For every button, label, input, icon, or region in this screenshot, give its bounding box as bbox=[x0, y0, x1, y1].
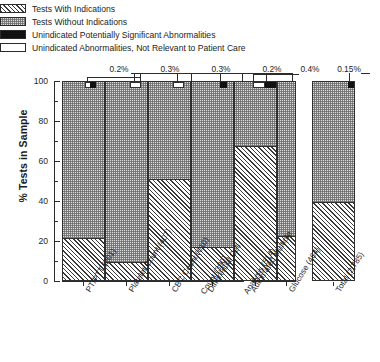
y-axis-tick-major bbox=[55, 281, 60, 282]
x-axis-tick bbox=[286, 282, 287, 286]
y-tick-label: 100 bbox=[26, 76, 48, 86]
leader-line bbox=[349, 73, 350, 82]
annotation-pct-pt-ptt: 0.2% bbox=[109, 64, 128, 74]
y-tick-label: 80 bbox=[26, 116, 48, 126]
segment-significant-abnormalities bbox=[90, 82, 96, 88]
segment-not-relevant-abnormalities bbox=[173, 82, 184, 88]
y-tick-label: 20 bbox=[26, 236, 48, 246]
y-tick-label: 40 bbox=[26, 196, 48, 206]
segment-without-indications bbox=[149, 82, 190, 179]
leader-line bbox=[266, 74, 267, 82]
leader-line bbox=[242, 73, 243, 82]
y-axis-tick-major bbox=[55, 121, 60, 122]
segment-without-indications bbox=[63, 82, 104, 238]
segment-without-indications bbox=[278, 82, 295, 236]
y-axis-tick-major bbox=[55, 241, 60, 242]
segment-without-indications bbox=[192, 82, 233, 247]
leader-line bbox=[191, 73, 192, 82]
y-axis-tick-labels: 0 20 40 60 80 100 bbox=[24, 0, 48, 362]
leader-line bbox=[220, 73, 221, 82]
y-tick-label: 0 bbox=[26, 276, 48, 286]
segment-not-relevant-abnormalities bbox=[130, 82, 141, 88]
y-axis-tick-minor bbox=[55, 221, 58, 222]
y-axis-tick-minor bbox=[55, 141, 58, 142]
segment-without-indications bbox=[313, 82, 354, 202]
y-tick-label: 60 bbox=[26, 156, 48, 166]
y-axis-tick-minor bbox=[55, 101, 58, 102]
leader-line bbox=[87, 77, 140, 78]
y-axis-tick-major bbox=[55, 201, 60, 202]
x-axis-tick bbox=[83, 282, 84, 286]
x-axis-tick bbox=[333, 282, 334, 286]
leader-line bbox=[177, 73, 178, 82]
y-axis-tick-major bbox=[55, 161, 60, 162]
leader-line bbox=[253, 74, 254, 82]
y-axis-tick-minor bbox=[55, 261, 58, 262]
leader-line bbox=[361, 73, 370, 74]
x-axis-tick bbox=[126, 282, 127, 286]
segment-significant-abnormalities bbox=[348, 82, 355, 88]
segment-without-indications bbox=[235, 82, 276, 146]
segment-not-relevant-abnormalities bbox=[253, 82, 265, 88]
bar-pt-ptt[interactable] bbox=[62, 81, 105, 281]
stacked-bar-chart: % Tests in Sample 0 20 40 60 80 100 bbox=[0, 0, 380, 362]
segment-significant-abnormalities bbox=[220, 82, 227, 88]
annotation-pct-automated-multiple-analysis: 0.4% bbox=[300, 64, 319, 74]
leader-line bbox=[134, 73, 135, 82]
leader-line bbox=[140, 73, 141, 82]
leader-line bbox=[134, 73, 182, 74]
segment-significant-abnormalities bbox=[265, 82, 276, 88]
segment-without-indications bbox=[106, 82, 147, 262]
x-axis-tick bbox=[169, 282, 170, 286]
y-axis-tick-minor bbox=[55, 181, 58, 182]
leader-line bbox=[253, 74, 299, 75]
y-axis-tick-major bbox=[55, 81, 60, 82]
